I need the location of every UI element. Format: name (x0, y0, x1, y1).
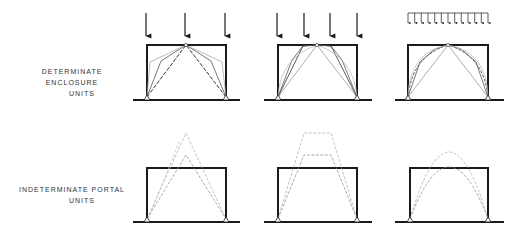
hinge (184, 43, 187, 46)
support-right (223, 95, 229, 100)
determinate-unit-2 (264, 13, 372, 100)
determinate-unit-3 (395, 13, 504, 100)
load-arrows (146, 13, 225, 36)
structural-diagram (0, 0, 524, 232)
indeterminate-unit-3 (395, 152, 504, 222)
indeterminate-unit-2 (264, 133, 372, 222)
frame (147, 45, 226, 99)
determinate-unit-1 (133, 13, 240, 100)
support-left (144, 95, 150, 100)
indeterminate-unit-1 (133, 133, 240, 222)
